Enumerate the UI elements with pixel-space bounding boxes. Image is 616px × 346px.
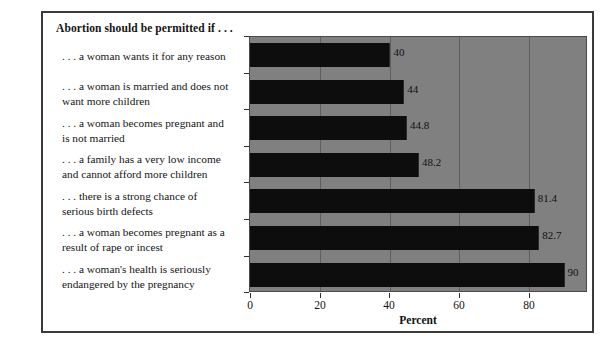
category-label-line: endangered by the pregnancy [62, 277, 244, 292]
x-tick [320, 293, 321, 298]
x-tick-label: 60 [453, 299, 465, 311]
category-label-line: . . . a woman becomes pregnant as a [62, 225, 244, 240]
category-label-line: and cannot afford more children [62, 167, 244, 182]
category-label-line: . . . a woman's health is seriously [62, 262, 244, 277]
category-label: . . . a family has a very low income and… [62, 152, 244, 181]
category-label-line: . . . a woman becomes pregnant and [62, 116, 244, 131]
category-tick [244, 292, 249, 293]
gridline-80 [529, 37, 530, 291]
category-label-line: . . . a woman is married and does not [62, 79, 244, 94]
x-tick-label: 80 [523, 299, 535, 311]
category-label-line: is not married [62, 131, 244, 146]
bar [250, 263, 565, 287]
category-label: . . . a woman is married and does not wa… [62, 79, 244, 108]
bar-value-label: 48.2 [422, 156, 441, 168]
category-label-line: want more children [62, 94, 244, 109]
category-label: . . . a woman wants it for any reason [62, 49, 244, 64]
x-tick [250, 293, 251, 298]
x-tick [389, 293, 390, 298]
bar [250, 80, 404, 104]
x-tick-label: 0 [247, 299, 253, 311]
category-label-line: . . . a woman wants it for any reason [62, 49, 244, 64]
x-axis-title: Percent [249, 314, 587, 326]
category-label-line: serious birth defects [62, 204, 244, 219]
x-tick [459, 293, 460, 298]
figure: Abortion should be permitted if . . . . … [0, 0, 616, 346]
bar-value-label: 82.7 [542, 229, 561, 241]
bar [250, 226, 539, 250]
category-label: . . . a woman becomes pregnant and is no… [62, 116, 244, 145]
plot-area: 40 44 44.8 48.2 81.4 82.7 90 [249, 36, 587, 292]
chart-title: Abortion should be permitted if . . . [56, 22, 233, 34]
bar [250, 43, 390, 67]
bar-value-label: 40 [393, 46, 404, 58]
category-label: . . . a woman's health is seriously enda… [62, 262, 244, 291]
bar [250, 116, 407, 140]
category-label-line: . . . a family has a very low income [62, 152, 244, 167]
x-tick-label: 40 [383, 299, 395, 311]
bar [250, 153, 419, 177]
bar-value-label: 44 [407, 83, 418, 95]
bar-value-label: 90 [568, 266, 579, 278]
bar [250, 189, 535, 213]
x-tick-label: 20 [314, 299, 326, 311]
bar-value-label: 44.8 [410, 119, 429, 131]
category-label: . . . a woman becomes pregnant as a resu… [62, 225, 244, 254]
category-label-line: result of rape or incest [62, 240, 244, 255]
x-tick [529, 293, 530, 298]
category-label-line: . . . there is a strong chance of [62, 189, 244, 204]
bar-value-label: 81.4 [538, 192, 557, 204]
category-label: . . . there is a strong chance of seriou… [62, 189, 244, 218]
gridline-60 [459, 37, 460, 291]
